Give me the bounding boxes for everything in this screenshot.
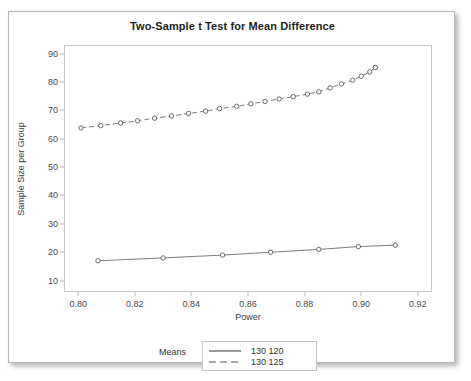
x-tick-mark [304,292,305,296]
y-tick-mark [60,223,64,224]
chart-card: Two-Sample t Test for Mean Difference Sa… [8,11,455,363]
y-tick-mark [60,167,64,168]
legend-label-dashed: 130 125 [251,357,284,367]
data-point-marker [328,86,332,90]
data-point-marker [161,256,165,260]
y-tick-label: 80 [48,77,58,87]
data-point-marker [169,114,173,118]
x-tick-mark [361,292,362,296]
y-tick-mark [60,81,64,82]
legend-title: Means [159,347,186,357]
legend-line-solid-icon [208,347,242,355]
data-point-marker [249,102,253,106]
data-point-marker [305,92,309,96]
data-point-marker [135,119,139,123]
x-tick-mark [78,292,79,296]
data-point-marker [359,74,363,78]
top-cutoff-text [0,0,471,9]
legend-item-dashed: 130 125 [208,356,311,367]
x-tick-label: 0.84 [183,299,201,309]
x-tick-mark [134,292,135,296]
data-point-marker [351,78,355,82]
data-point-marker [291,94,295,98]
data-point-marker [96,259,100,263]
x-tick-mark [191,292,192,296]
y-tick-label: 10 [48,276,58,286]
x-tick-label: 0.82 [126,299,144,309]
data-point-marker [277,97,281,101]
x-axis-title: Power [235,312,261,322]
x-tick-label: 0.92 [409,299,427,309]
series-130-125 [79,65,378,130]
x-tick-mark [248,292,249,296]
series-line [81,67,375,127]
y-tick-mark [60,110,64,111]
data-point-marker [368,70,372,74]
x-tick-label: 0.88 [296,299,314,309]
y-tick-mark [60,252,64,253]
y-tick-label: 50 [48,162,58,172]
data-point-marker [217,106,221,110]
x-tick-mark [417,292,418,296]
y-tick-mark [60,280,64,281]
y-tick-mark [60,195,64,196]
data-point-marker [220,253,224,257]
data-point-marker [356,244,360,248]
series-130-120 [96,243,398,263]
y-tick-mark [60,138,64,139]
y-tick-label: 20 [48,247,58,257]
x-tick-label: 0.80 [69,299,87,309]
data-point-marker [317,90,321,94]
y-axis-title: Sample Size per Group [16,122,26,216]
data-point-marker [393,243,397,247]
data-point-marker [268,250,272,254]
y-tick-label: 60 [48,134,58,144]
legend-label-solid: 130 120 [251,346,284,356]
y-tick-label: 90 [48,49,58,59]
page-title: Two-Sample t Test for Mean Difference [9,20,456,32]
legend-item-solid: 130 120 [208,345,311,356]
plot-svg [64,45,432,292]
x-tick-label: 0.86 [239,299,257,309]
x-tick-label: 0.90 [352,299,370,309]
data-point-marker [234,104,238,108]
data-point-marker [373,65,377,69]
data-point-marker [263,99,267,103]
y-tick-label: 30 [48,219,58,229]
data-point-marker [99,123,103,127]
legend-line-dashed-icon [208,358,242,366]
data-point-marker [152,116,156,120]
data-point-marker [203,109,207,113]
y-tick-label: 40 [48,190,58,200]
data-point-marker [79,126,83,130]
data-point-marker [317,247,321,251]
data-point-marker [339,82,343,86]
data-point-marker [118,121,122,125]
legend: Means 130 120 130 125 [202,341,317,371]
data-point-marker [186,111,190,115]
y-tick-mark [60,53,64,54]
plot-area: Sample Size per Group Power 102030405060… [64,45,432,292]
series-line [98,245,395,261]
y-tick-label: 70 [48,105,58,115]
